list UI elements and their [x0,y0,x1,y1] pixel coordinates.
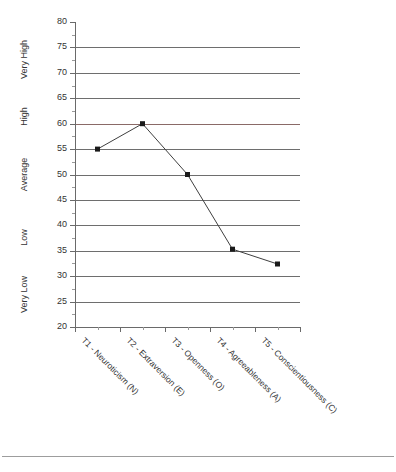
footer-divider [2,456,394,457]
data-point-3 [185,172,190,177]
personality-profile-chart: 20253035404550556065707580 Very HighHigh… [0,0,396,472]
data-point-1 [95,147,100,152]
series-line [98,124,278,264]
data-series [0,0,396,472]
data-point-5 [275,262,280,267]
data-point-4 [230,247,235,252]
data-point-2 [140,121,145,126]
